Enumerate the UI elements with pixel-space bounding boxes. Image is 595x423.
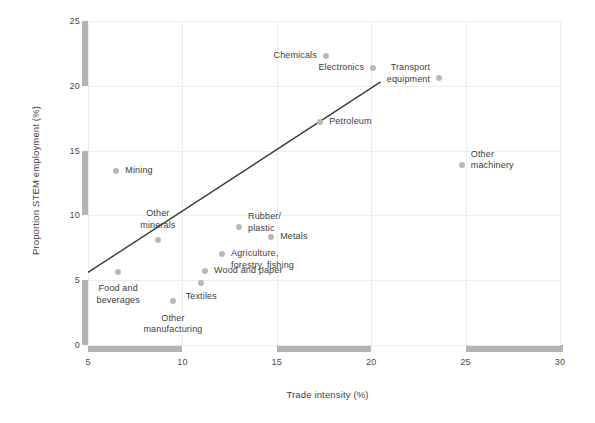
- data-point-label: Metals: [280, 232, 307, 244]
- data-point-label: Other machinery: [471, 148, 514, 171]
- data-point-label: Wood and paper: [214, 265, 282, 277]
- axis-band-segment: [182, 345, 276, 352]
- axis-band-segment: [371, 345, 465, 352]
- x-tick-label: 30: [545, 357, 575, 367]
- y-tick-label: 5: [58, 275, 80, 285]
- data-point[interactable]: [317, 119, 323, 125]
- data-point[interactable]: [268, 234, 274, 240]
- y-tick-label: 15: [58, 146, 80, 156]
- data-point-label: Other manufacturing: [143, 312, 202, 335]
- data-point-label: Chemicals: [274, 50, 317, 62]
- data-point[interactable]: [198, 280, 204, 286]
- gridline-horizontal: [88, 345, 560, 346]
- data-point-label: Electronics: [318, 62, 364, 74]
- data-point[interactable]: [323, 53, 329, 59]
- gridline-vertical: [560, 21, 561, 345]
- scatter-chart-figure: Proportion STEM employment (%) Trade int…: [0, 0, 595, 423]
- x-tick-label: 15: [262, 357, 292, 367]
- data-point[interactable]: [236, 224, 242, 230]
- x-tick-label: 10: [167, 357, 197, 367]
- data-point[interactable]: [459, 162, 465, 168]
- plot-area: ChemicalsElectronicsTransport equipmentP…: [88, 21, 560, 345]
- y-tick-label: 10: [58, 210, 80, 220]
- data-point-label: Transport equipment: [387, 62, 430, 85]
- x-tick-label: 20: [356, 357, 386, 367]
- data-point[interactable]: [370, 65, 376, 71]
- y-tick-label: 0: [58, 340, 80, 350]
- data-point-label: Petroleum: [329, 116, 371, 128]
- data-point[interactable]: [115, 269, 121, 275]
- data-point[interactable]: [436, 75, 442, 81]
- x-axis-band: [88, 345, 563, 352]
- data-point[interactable]: [155, 237, 161, 243]
- x-tick-label: 5: [73, 357, 103, 367]
- y-tick-label: 20: [58, 81, 80, 91]
- data-point-label: Other minerals: [140, 208, 175, 231]
- y-tick-label: 25: [58, 16, 80, 26]
- x-axis-title: Trade intensity (%): [0, 389, 595, 400]
- data-point-label: Food and beverages: [97, 283, 140, 306]
- data-point[interactable]: [219, 251, 225, 257]
- data-point-label: Textiles: [186, 291, 217, 303]
- y-axis-title: Proportion STEM employment (%): [30, 61, 41, 301]
- data-point[interactable]: [113, 168, 119, 174]
- data-point-label: Rubber/ plastic: [248, 211, 281, 234]
- data-point-label: Mining: [125, 166, 152, 178]
- x-tick-label: 25: [451, 357, 481, 367]
- data-point[interactable]: [202, 268, 208, 274]
- data-point[interactable]: [170, 298, 176, 304]
